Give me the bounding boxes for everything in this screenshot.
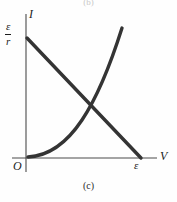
source-line-curve: [27, 38, 141, 158]
x-axis-label: V: [160, 150, 167, 162]
origin-label: O: [13, 160, 22, 172]
plot-area: [0, 0, 177, 202]
bottom-caption: (c): [0, 180, 177, 191]
device-exponential-curve: [28, 28, 122, 157]
fraction-denominator: r: [5, 36, 11, 48]
figure-container: (b) I V O ε ε r (c): [0, 0, 177, 202]
y-intercept-fraction-label: ε r: [5, 21, 11, 47]
x-intercept-label: ε: [134, 160, 138, 171]
fraction-numerator: ε: [5, 21, 11, 33]
y-axis-label: I: [29, 8, 33, 20]
